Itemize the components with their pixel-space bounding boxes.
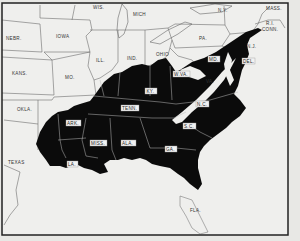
label-ind: IND.: [127, 56, 137, 61]
label-kans: KANS.: [12, 71, 27, 76]
svg-text:MD.: MD.: [209, 57, 218, 62]
label-la: LA.: [67, 161, 78, 167]
svg-text:W.VA.: W.VA.: [174, 72, 188, 77]
label-nj: N.J.: [247, 44, 256, 49]
map-figure: WIS. MICH N.Y. MASS. CONN. R.I. NEBR. IO…: [0, 0, 300, 241]
svg-text:N.C.: N.C.: [197, 102, 207, 107]
label-nebr: NEBR.: [6, 36, 22, 41]
svg-text:DEL.: DEL.: [243, 59, 254, 64]
svg-text:MISS.: MISS.: [91, 141, 105, 146]
label-del: DEL.: [242, 58, 255, 64]
label-ark: ARK.: [66, 120, 81, 126]
us-map: WIS. MICH N.Y. MASS. CONN. R.I. NEBR. IO…: [0, 0, 300, 241]
svg-text:ARK.: ARK.: [67, 121, 79, 126]
svg-text:TENN.: TENN.: [122, 106, 137, 111]
label-okla: OKLA.: [17, 107, 32, 112]
label-ill: ILL.: [96, 58, 105, 63]
label-mich: MICH: [133, 12, 146, 17]
label-ky: KY.: [145, 88, 157, 94]
label-md: MD.: [208, 56, 220, 62]
label-ala: ALA.: [121, 140, 136, 146]
svg-text:ALA.: ALA.: [122, 141, 133, 146]
label-va: VA.: [206, 79, 214, 84]
label-ga: GA.: [165, 146, 177, 152]
svg-text:LA.: LA.: [68, 162, 76, 167]
svg-text:GA.: GA.: [166, 147, 175, 152]
label-mo: MO.: [65, 75, 75, 80]
label-ohio: OHIO: [156, 52, 169, 57]
label-mass: MASS.: [266, 6, 282, 11]
label-nc: N.C.: [196, 101, 209, 107]
label-wva: W.VA.: [173, 71, 190, 77]
label-ri: R.I.: [266, 21, 274, 26]
label-texas: TEXAS: [8, 160, 25, 165]
label-fla: FLA.: [190, 208, 201, 213]
label-conn: CONN.: [262, 27, 278, 32]
label-pa: PA.: [199, 36, 207, 41]
label-wis: WIS.: [93, 5, 104, 10]
svg-text:S.C.: S.C.: [184, 124, 194, 129]
label-miss: MISS.: [90, 140, 107, 146]
label-tenn: TENN.: [121, 105, 139, 111]
svg-text:KY.: KY.: [147, 89, 155, 94]
label-iowa: IOWA: [56, 34, 70, 39]
label-sc: S.C.: [183, 123, 196, 129]
label-ny: N.Y.: [218, 8, 228, 13]
